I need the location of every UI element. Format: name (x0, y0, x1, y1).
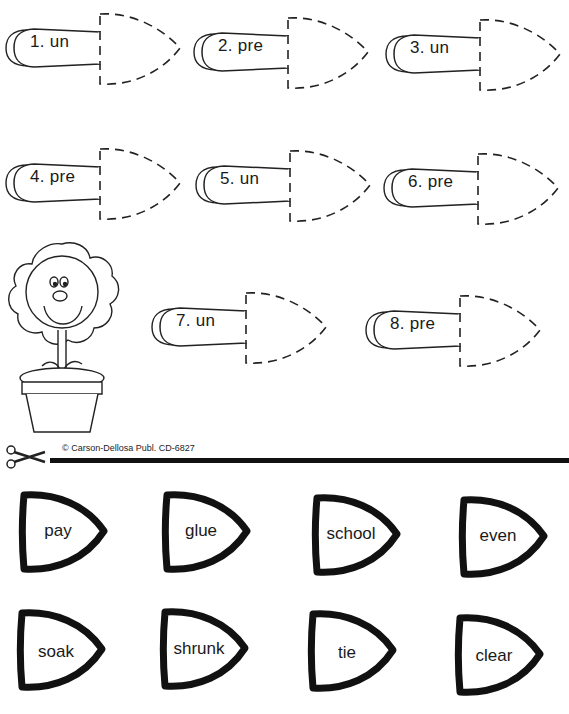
answer-slot-8[interactable]: 8. pre (362, 284, 542, 368)
slot-label: 2. pre (218, 36, 263, 56)
piece-word: even (456, 526, 540, 546)
answer-slot-5[interactable]: 5. un (192, 139, 372, 223)
slot-label: 7. un (176, 311, 215, 331)
piece-word: soak (14, 642, 98, 662)
slot-label: 4. pre (30, 167, 75, 187)
slot-label: 6. pre (408, 172, 453, 192)
slot-label: 3. un (410, 38, 449, 58)
slot-label: 5. un (220, 169, 259, 189)
copyright-text: © Carson-Dellosa Publ. CD-6827 (62, 443, 195, 453)
slot-label: 8. pre (390, 314, 435, 334)
piece-word: pay (16, 521, 100, 541)
cut-piece-tie[interactable]: tie (305, 606, 405, 696)
piece-word: tie (305, 643, 389, 663)
answer-slot-3[interactable]: 3. un (382, 8, 562, 92)
cut-piece-pay[interactable]: pay (16, 487, 116, 577)
cut-piece-clear[interactable]: clear (452, 610, 552, 700)
piece-word: clear (452, 646, 536, 666)
cut-piece-shrunk[interactable]: shrunk (157, 604, 257, 694)
cut-piece-even[interactable]: even (456, 492, 556, 582)
piece-word: shrunk (157, 639, 241, 659)
flower-pot-illustration (2, 236, 122, 436)
answer-slot-4[interactable]: 4. pre (2, 137, 182, 221)
cut-piece-soak[interactable]: soak (14, 605, 114, 695)
scissors-icon (5, 445, 47, 469)
piece-word: glue (159, 521, 243, 541)
cut-piece-glue[interactable]: glue (159, 487, 259, 577)
cut-piece-school[interactable]: school (309, 490, 409, 580)
answer-slot-1[interactable]: 1. un (2, 2, 182, 86)
answer-slot-2[interactable]: 2. pre (190, 6, 370, 90)
answer-slot-6[interactable]: 6. pre (380, 142, 560, 226)
slot-label: 1. un (30, 32, 69, 52)
cut-line (50, 458, 569, 463)
answer-slot-7[interactable]: 7. un (148, 281, 328, 365)
piece-word: school (309, 524, 393, 544)
